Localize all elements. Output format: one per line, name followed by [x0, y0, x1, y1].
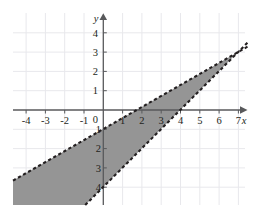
x-tick-label: 1	[120, 115, 125, 126]
x-axis-label: x	[241, 115, 247, 126]
x-tick-label: 6	[216, 115, 221, 126]
x-tick-label: 5	[197, 115, 202, 126]
y-tick-label: 2	[96, 143, 101, 154]
y-axis-label: y	[93, 13, 99, 24]
x-tick-label: -3	[41, 115, 50, 126]
x-tick-label: -2	[60, 115, 69, 126]
x-tick-label: 2	[139, 115, 144, 126]
y-tick-label: 3	[96, 163, 101, 174]
y-tick-label: 1	[96, 124, 101, 135]
x-tick-label: -1	[80, 115, 89, 126]
x-tick-label: 3	[159, 115, 164, 126]
graph-figure: -4 -3 -2 -1 1 2 3 4 5 6 7 4 3 2 1 1 2 3 …	[0, 0, 257, 213]
y-tick-label: 3	[93, 47, 98, 58]
y-tick-label: 4	[93, 28, 99, 39]
coordinate-plane: -4 -3 -2 -1 1 2 3 4 5 6 7 4 3 2 1 1 2 3 …	[0, 0, 257, 213]
y-tick-label: 4	[96, 182, 102, 193]
y-tick-label: 2	[93, 66, 98, 77]
origin-label: 0	[93, 114, 98, 125]
x-tick-label: 4	[178, 115, 184, 126]
y-tick-label: 1	[93, 85, 98, 96]
x-tick-label: 7	[236, 115, 241, 126]
x-tick-label: -4	[22, 115, 31, 126]
